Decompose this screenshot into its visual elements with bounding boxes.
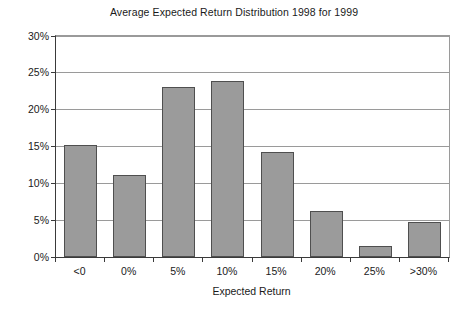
x-axis-tick: [301, 257, 302, 262]
y-axis-tick-label: 10%: [7, 177, 49, 189]
x-axis-tick-label: 20%: [315, 265, 336, 277]
x-axis-tick-label: <0: [74, 265, 86, 277]
x-axis-tick: [350, 257, 351, 262]
y-axis-tick-label: 5%: [7, 214, 49, 226]
x-axis-tick: [399, 257, 400, 262]
y-axis-tick: [51, 220, 56, 221]
y-axis-tick: [51, 183, 56, 184]
bar: [211, 81, 244, 257]
x-axis-title: Expected Return: [55, 285, 448, 297]
y-axis-tick: [51, 109, 56, 110]
bar: [261, 152, 294, 257]
x-axis-tick-label: 15%: [266, 265, 287, 277]
x-axis-tick-label: 5%: [170, 265, 185, 277]
bar: [162, 87, 195, 257]
y-axis-labels: 0%5%10%15%20%25%30%: [0, 35, 49, 257]
gridline-30%: [56, 36, 449, 37]
x-axis: <00%5%10%15%20%25%>30%: [55, 256, 449, 286]
bar: [64, 145, 97, 257]
x-axis-tick: [153, 257, 154, 262]
y-axis-tick-label: 25%: [7, 66, 49, 78]
gridline-25%: [56, 72, 449, 73]
bar: [310, 211, 343, 257]
chart-figure: Average Expected Return Distribution 199…: [0, 0, 468, 310]
x-axis-tick: [55, 257, 56, 262]
y-axis-tick-label: 15%: [7, 140, 49, 152]
x-axis-tick: [448, 257, 449, 262]
y-axis-tick-label: 0%: [7, 251, 49, 263]
y-axis-tick-label: 20%: [7, 103, 49, 115]
gridline-15%: [56, 146, 449, 147]
x-axis-tick-label: 0%: [121, 265, 136, 277]
bar: [408, 222, 441, 257]
chart-title: Average Expected Return Distribution 199…: [0, 6, 468, 18]
x-axis-tick: [104, 257, 105, 262]
x-axis-tick-label: >30%: [410, 265, 437, 277]
x-axis-tick-label: 10%: [216, 265, 237, 277]
bar: [113, 175, 146, 258]
x-axis-tick-label: 25%: [364, 265, 385, 277]
x-axis-tick: [252, 257, 253, 262]
y-axis-tick: [51, 146, 56, 147]
gridline-20%: [56, 109, 449, 110]
y-axis-tick: [51, 36, 56, 37]
plot-area: [55, 35, 450, 258]
y-axis-tick: [51, 72, 56, 73]
x-axis-tick: [202, 257, 203, 262]
y-axis-tick-label: 30%: [7, 30, 49, 42]
